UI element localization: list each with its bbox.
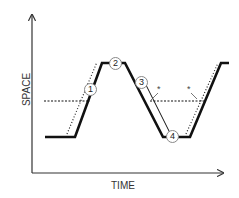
star-pointer-right (191, 93, 197, 99)
x-axis-label: TIME (111, 180, 135, 191)
dotted-rise-right (186, 63, 218, 134)
marker-2: 2 (109, 57, 122, 70)
star-annotation-right: * (187, 84, 191, 94)
y-axis-label: SPACE (21, 68, 32, 112)
diagram-canvas (0, 0, 239, 198)
star-annotation-left: * (157, 84, 161, 94)
marker-1: 1 (84, 83, 97, 96)
marker-3: 3 (135, 76, 148, 89)
marker-4: 4 (166, 130, 179, 143)
main-trajectory (45, 63, 229, 137)
dotted-rise-left (67, 62, 97, 134)
